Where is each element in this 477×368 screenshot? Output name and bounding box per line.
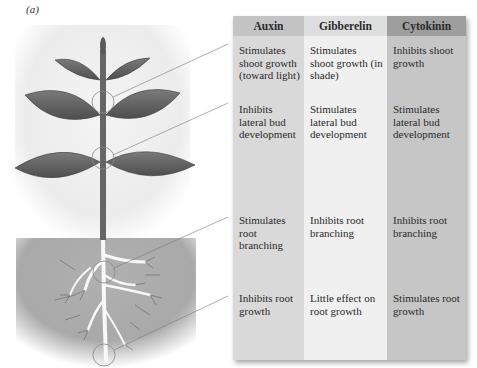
auxin-root-branch-cell: Stimulates root branching xyxy=(239,214,300,252)
cytokinin-header: Cytokinin xyxy=(387,16,466,36)
gibberelin-bud-cell: Stimulates lateral bud development xyxy=(310,103,383,141)
auxin-bud-cell: Inhibits lateral bud development xyxy=(239,103,300,141)
gibberelin-root-branch-cell: Inhibits root branching xyxy=(310,214,383,239)
auxin-shoot-cell: Stimulates shoot growth (toward light) xyxy=(239,44,300,82)
cytokinin-column: Cytokinin Inhibits shoot growth Stimulat… xyxy=(387,16,466,360)
cytokinin-shoot-cell: Inhibits shoot growth xyxy=(393,44,462,69)
gibberelin-header: Gibberelin xyxy=(304,16,387,36)
auxin-root-growth-cell: Inhibits root growth xyxy=(239,292,300,317)
stem xyxy=(100,37,106,240)
plant-illustration xyxy=(0,0,240,368)
auxin-header: Auxin xyxy=(233,16,304,36)
gibberelin-root-growth-cell: Little effect on root growth xyxy=(310,292,383,317)
gibberelin-shoot-cell: Stimulates shoot growth (in shade) xyxy=(310,44,383,82)
auxin-column: Auxin Stimulates shoot growth (toward li… xyxy=(233,16,304,360)
gibberelin-column: Gibberelin Stimulates shoot growth (in s… xyxy=(304,16,387,360)
cytokinin-root-branch-cell: Inhibits root branching xyxy=(393,214,462,239)
hormone-effects-table: Auxin Stimulates shoot growth (toward li… xyxy=(233,16,466,360)
cytokinin-root-growth-cell: Stimulates root growth xyxy=(393,292,462,317)
cytokinin-bud-cell: Stimulates lateral bud development xyxy=(393,103,462,141)
